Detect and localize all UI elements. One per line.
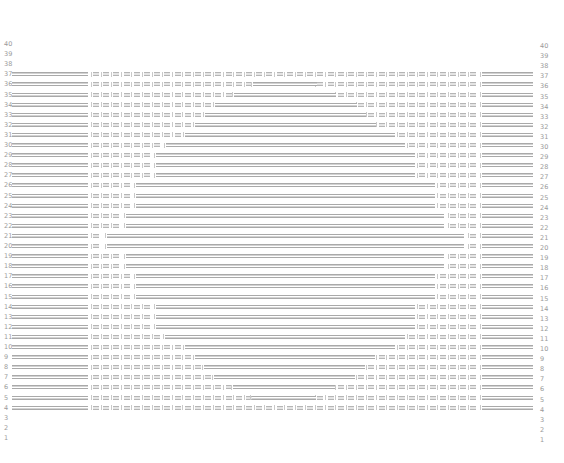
seat[interactable] — [124, 406, 130, 410]
seat[interactable] — [103, 82, 109, 86]
seat[interactable] — [450, 163, 456, 167]
seat[interactable] — [470, 133, 476, 137]
seat[interactable] — [460, 93, 466, 97]
seat[interactable] — [409, 365, 415, 369]
seat[interactable] — [368, 103, 374, 107]
seat[interactable] — [93, 345, 99, 349]
seat[interactable] — [460, 133, 466, 137]
seat[interactable] — [144, 133, 150, 137]
seat[interactable] — [175, 345, 181, 349]
seat[interactable] — [124, 274, 130, 278]
seat[interactable] — [419, 133, 425, 137]
seat[interactable] — [103, 183, 109, 187]
seat[interactable] — [379, 385, 385, 389]
seat[interactable] — [430, 163, 436, 167]
seat[interactable] — [419, 335, 425, 339]
seat[interactable] — [93, 264, 99, 268]
seat[interactable] — [470, 173, 476, 177]
seat[interactable] — [205, 103, 211, 107]
seat[interactable] — [470, 72, 476, 76]
seat[interactable] — [113, 153, 119, 157]
seat[interactable] — [430, 406, 436, 410]
seat[interactable] — [195, 365, 201, 369]
seat[interactable] — [450, 72, 456, 76]
seat[interactable] — [328, 396, 334, 400]
seat[interactable] — [399, 113, 405, 117]
seat[interactable] — [399, 406, 405, 410]
seat[interactable] — [185, 355, 191, 359]
seat[interactable] — [358, 385, 364, 389]
seat[interactable] — [389, 365, 395, 369]
seat[interactable] — [175, 396, 181, 400]
seat[interactable] — [93, 82, 99, 86]
seat[interactable] — [430, 82, 436, 86]
seat[interactable] — [103, 173, 109, 177]
seat[interactable] — [164, 355, 170, 359]
seat[interactable] — [348, 385, 354, 389]
seat[interactable] — [144, 123, 150, 127]
seat[interactable] — [195, 93, 201, 97]
seat[interactable] — [450, 295, 456, 299]
seat[interactable] — [185, 396, 191, 400]
seat[interactable] — [103, 264, 109, 268]
seat[interactable] — [154, 82, 160, 86]
seat[interactable] — [195, 396, 201, 400]
seat[interactable] — [144, 325, 150, 329]
seat[interactable] — [195, 82, 201, 86]
seat[interactable] — [103, 315, 109, 319]
seat[interactable] — [419, 325, 425, 329]
seat[interactable] — [460, 254, 466, 258]
seat[interactable] — [103, 194, 109, 198]
seat[interactable] — [368, 385, 374, 389]
seat[interactable] — [154, 133, 160, 137]
seat[interactable] — [134, 153, 140, 157]
seat[interactable] — [450, 315, 456, 319]
seat[interactable] — [103, 224, 109, 228]
seat[interactable] — [113, 82, 119, 86]
seat[interactable] — [399, 365, 405, 369]
seat[interactable] — [470, 82, 476, 86]
seat[interactable] — [113, 204, 119, 208]
seat[interactable] — [430, 123, 436, 127]
seat[interactable] — [470, 375, 476, 379]
seat[interactable] — [328, 72, 334, 76]
seat[interactable] — [103, 133, 109, 137]
seat[interactable] — [470, 143, 476, 147]
seat[interactable] — [379, 365, 385, 369]
seat[interactable] — [440, 345, 446, 349]
seat[interactable] — [93, 123, 99, 127]
seat[interactable] — [93, 204, 99, 208]
seat[interactable] — [113, 385, 119, 389]
seat[interactable] — [348, 82, 354, 86]
seat[interactable] — [348, 93, 354, 97]
seat[interactable] — [205, 93, 211, 97]
seat[interactable] — [328, 82, 334, 86]
seat[interactable] — [124, 93, 130, 97]
seat[interactable] — [154, 406, 160, 410]
seat[interactable] — [154, 365, 160, 369]
seat[interactable] — [440, 295, 446, 299]
seat[interactable] — [93, 93, 99, 97]
seat[interactable] — [93, 194, 99, 198]
seat[interactable] — [470, 204, 476, 208]
seat[interactable] — [266, 72, 272, 76]
seat[interactable] — [154, 93, 160, 97]
seat[interactable] — [205, 72, 211, 76]
seat[interactable] — [205, 375, 211, 379]
seat[interactable] — [124, 163, 130, 167]
seat[interactable] — [470, 315, 476, 319]
seat[interactable] — [440, 163, 446, 167]
seat[interactable] — [93, 305, 99, 309]
seat[interactable] — [175, 82, 181, 86]
seat[interactable] — [379, 396, 385, 400]
seat[interactable] — [164, 385, 170, 389]
seat[interactable] — [144, 93, 150, 97]
seat[interactable] — [470, 93, 476, 97]
seat[interactable] — [450, 173, 456, 177]
seat[interactable] — [103, 153, 109, 157]
seat[interactable] — [124, 113, 130, 117]
seat[interactable] — [470, 274, 476, 278]
seat[interactable] — [470, 396, 476, 400]
seat[interactable] — [164, 365, 170, 369]
seat[interactable] — [144, 335, 150, 339]
